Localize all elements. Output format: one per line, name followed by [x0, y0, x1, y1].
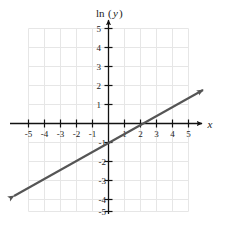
graph-figure: -5 -4 -3 -2 -1 1 2 3 4 5 5 4 3 2 1 -1 -2…: [0, 0, 225, 226]
x-axis-title: x: [207, 118, 213, 130]
x-tick-label: -1: [89, 129, 97, 139]
y-tick-label: 2: [97, 81, 102, 91]
y-tick-label: -5: [99, 207, 107, 217]
y-tick-label: 1: [97, 100, 102, 110]
axis-lines: [10, 20, 202, 214]
x-tick-label: -3: [57, 129, 65, 139]
y-axis-title-paren-close: ): [119, 7, 123, 20]
x-tick-label: -2: [73, 129, 81, 139]
x-tick-label: 4: [170, 129, 175, 139]
y-axis-title-var: y: [112, 7, 118, 19]
y-tick-label: -2: [99, 157, 107, 167]
y-axis-tick-labels: 5 4 3 2 1 -1 -2 -3 -4 -5: [97, 24, 107, 217]
y-tick-label: 4: [97, 43, 102, 53]
x-tick-label: -4: [41, 129, 49, 139]
y-tick-label: 3: [97, 62, 102, 72]
coordinate-plane: -5 -4 -3 -2 -1 1 2 3 4 5 5 4 3 2 1 -1 -2…: [0, 0, 225, 226]
y-axis-title-paren-open: (: [108, 7, 112, 20]
x-tick-label: 2: [138, 129, 143, 139]
x-tick-label: 3: [154, 129, 159, 139]
y-tick-label: 5: [97, 24, 102, 34]
x-tick-label: 5: [186, 129, 191, 139]
x-tick-label: -5: [25, 129, 33, 139]
y-axis-title: ln ( y ): [96, 7, 123, 20]
y-axis-title-func: ln: [96, 7, 105, 19]
y-tick-label: -3: [99, 176, 107, 186]
y-tick-label: -4: [99, 195, 107, 205]
